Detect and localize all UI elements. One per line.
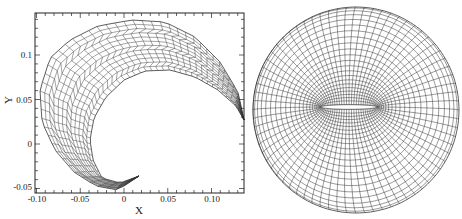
x-tick-label: -0.10 [28, 194, 47, 204]
left-mesh-plot: -0.10 -0.05 0 0.05 0.10 0.1 0.05 0 -0.05… [2, 13, 244, 216]
x-axis-title: X [135, 204, 143, 216]
y-tick-label: 0.1 [21, 50, 32, 60]
x-tick-label: 0.05 [160, 194, 176, 204]
figure-canvas: -0.10 -0.05 0 0.05 0.10 0.1 0.05 0 -0.05… [0, 0, 462, 219]
y-tick-label: -0.05 [13, 182, 32, 192]
y-tick-label: 0.05 [16, 95, 32, 105]
airfoil-shape [321, 105, 377, 110]
x-tick-label: 0.10 [204, 194, 220, 204]
plot-frame [35, 13, 244, 193]
axis-ticks [35, 13, 244, 193]
y-tick-label: 0 [28, 139, 33, 149]
crescent-mesh [40, 20, 244, 190]
y-axis-title: Y [2, 96, 14, 104]
x-tick-label: 0 [122, 194, 127, 204]
airfoil-o-grid [253, 7, 459, 213]
o-grid-mesh [253, 7, 459, 213]
x-tick-label: -0.05 [71, 194, 90, 204]
